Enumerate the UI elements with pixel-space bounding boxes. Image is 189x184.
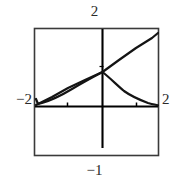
plot-area <box>0 0 189 184</box>
graph-figure: 2 −2 2 −1 <box>0 0 189 184</box>
plot-frame <box>35 29 159 156</box>
